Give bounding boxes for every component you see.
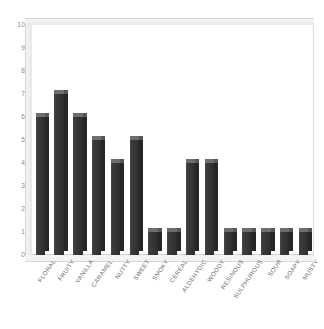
bar-column [130,25,140,255]
bar [36,117,46,255]
bar-side-face [101,136,105,251]
x-axis-tick-label-text: FLORAL [36,258,57,283]
bar-top-face [242,228,252,232]
bar-side-face [45,113,49,251]
bar-chart: 012345678910 FLORALFRUITYVANILLACARAMELN… [0,0,324,329]
y-axis-tick-label: 0 [1,252,25,259]
bar-top-side-face [308,228,312,232]
bar-top-side-face [158,228,162,232]
bar [73,117,83,255]
bar-top-face [167,228,177,232]
x-axis-tick-label-text: SWEET [132,258,151,281]
bar-top-side-face [289,228,293,232]
bar-top-side-face [64,90,68,94]
y-axis-tick-label: 10 [1,22,25,29]
y-axis-tick-label: 9 [1,45,25,52]
x-axis-tick-label-text: SOAPY [283,258,302,281]
bar-top-side-face [120,159,124,163]
bar-top-side-face [139,136,143,140]
bar-column [73,25,83,255]
bars-layer [32,25,314,255]
bar-column [36,25,46,255]
bar-column [92,25,102,255]
x-axis-tick-label-text: NUTTY [114,258,132,280]
bar-column [111,25,121,255]
x-axis-tick-label-text: MUSTY [301,258,320,281]
bar-column [54,25,64,255]
x-axis-tick-label-text: SOUR [266,258,283,278]
y-axis-tick-label: 1 [1,229,25,236]
bar-top-face [73,113,83,117]
y-axis-tick-label: 4 [1,160,25,167]
bar-column [224,25,234,255]
bar-column [205,25,215,255]
bar-top-side-face [83,113,87,117]
bar-top-side-face [195,159,199,163]
x-axis-tick-label: MUSTY [314,239,324,262]
plot-wall-left [25,18,32,255]
bar-top-side-face [101,136,105,140]
bar-top-face [36,113,46,117]
y-axis-tick-label: 7 [1,91,25,98]
bar-top-face [148,228,158,232]
bar [92,140,102,255]
plot-area [32,25,314,255]
bar-top-face [54,90,64,94]
bar-column [186,25,196,255]
y-axis-tick-label: 3 [1,183,25,190]
bar-top-face [205,159,215,163]
bar-top-side-face [214,159,218,163]
bar-column [261,25,271,255]
y-axis-tick-label: 2 [1,206,25,213]
plot-wall-top [25,18,314,25]
bar-side-face [83,113,87,251]
bar-top-side-face [271,228,275,232]
x-axis-tick-label-text: SMOKY [150,258,169,282]
bar-column [167,25,177,255]
bar-top-face [111,159,121,163]
bar-top-side-face [252,228,256,232]
x-axis: FLORALFRUITYVANILLACARAMELNUTTYSWEETSMOK… [32,258,322,329]
bar-top-face [130,136,140,140]
bar-side-face [139,136,143,251]
bar-column [148,25,158,255]
y-axis-tick-label: 8 [1,68,25,75]
bar-column [299,25,309,255]
bar-top-side-face [233,228,237,232]
bar-top-face [186,159,196,163]
y-axis-tick-label: 5 [1,137,25,144]
bar-top-face [299,228,309,232]
y-axis-tick-label: 6 [1,114,25,121]
x-axis-tick-label-text: FRUITY [56,258,76,282]
bar-top-side-face [45,113,49,117]
bar [54,94,64,255]
bar [130,140,140,255]
bar-top-face [92,136,102,140]
bar-column [242,25,252,255]
bar-side-face [64,90,68,251]
bar-top-side-face [177,228,181,232]
